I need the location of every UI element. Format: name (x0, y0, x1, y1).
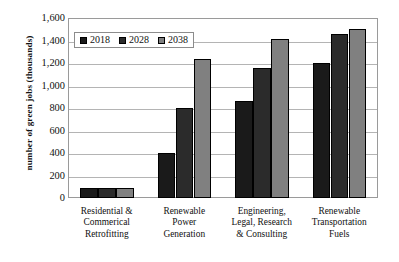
gridline (69, 154, 377, 155)
legend-swatch-icon (158, 37, 165, 44)
x-axis-category-label-line: Generation (140, 229, 230, 240)
x-axis-category-label-line: Fuels (295, 229, 385, 240)
gridline (69, 64, 377, 65)
y-axis-tick-label: 1,400 (7, 36, 65, 46)
x-axis-category-label: Residential &CommericalRetrofitting (62, 206, 152, 240)
y-axis-tick-label: 600 (7, 126, 65, 136)
y-axis-tick-label: 0 (7, 193, 65, 203)
gridline (69, 87, 377, 88)
x-axis-category-label-line: Engineering, (217, 206, 307, 217)
y-axis-tick-label: 400 (7, 148, 65, 158)
x-axis-category-label-line: Renewable (295, 206, 385, 217)
chart-legend: 201820282038 (74, 32, 194, 48)
x-axis-category-label-line: Legal, Research (217, 217, 307, 228)
gridline (69, 109, 377, 110)
x-axis-category-label: RenewablePowerGeneration (140, 206, 230, 240)
x-axis-category-label-line: Power (140, 217, 230, 228)
gridline (69, 132, 377, 133)
legend-label: 2018 (90, 35, 110, 45)
x-axis-category-label-line: Commerical (62, 217, 152, 228)
x-axis-category-label: RenewableTransportationFuels (295, 206, 385, 240)
y-axis-tick-label: 1,000 (7, 81, 65, 91)
y-axis-tick-label: 1,200 (7, 58, 65, 68)
legend-entry-2038: 2038 (158, 35, 188, 45)
legend-swatch-icon (119, 37, 126, 44)
legend-label: 2038 (168, 35, 188, 45)
x-axis-category-label-line: Residential & (62, 206, 152, 217)
legend-swatch-icon (80, 37, 87, 44)
y-axis-tick-label: 200 (7, 171, 65, 181)
y-axis-tick-label: 1,600 (7, 13, 65, 23)
y-axis-tick-label: 800 (7, 103, 65, 113)
legend-label: 2028 (129, 35, 149, 45)
legend-entry-2018: 2018 (80, 35, 110, 45)
x-axis-category-label-line: Retrofitting (62, 229, 152, 240)
bar-chart: number of green jobs (thousands) 1,6001,… (0, 0, 399, 262)
x-axis-category-label: Engineering,Legal, Research& Consulting (217, 206, 307, 240)
x-axis-category-label-line: Transportation (295, 217, 385, 228)
legend-entry-2028: 2028 (119, 35, 149, 45)
gridline (69, 177, 377, 178)
x-axis-category-label-line: & Consulting (217, 229, 307, 240)
x-axis-category-label-line: Renewable (140, 206, 230, 217)
